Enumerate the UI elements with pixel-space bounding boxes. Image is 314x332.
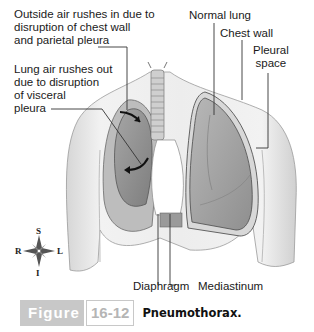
- figure-word: Figure: [20, 300, 84, 326]
- label-lung-air: Lung air rushes out due to disruption of…: [14, 63, 112, 115]
- compass-superior: S: [36, 226, 41, 236]
- compass-rose-icon: [23, 235, 55, 267]
- label-line: disruption of chest wall: [14, 21, 155, 34]
- label-line: pleura: [14, 102, 112, 115]
- compass-inferior: I: [36, 268, 40, 278]
- label-line: Pleural: [253, 44, 289, 57]
- label-line: space: [253, 57, 289, 70]
- trachea: [148, 62, 167, 140]
- label-pleural-space: Pleural space: [253, 44, 289, 70]
- label-line: Outside air rushes in due to: [14, 8, 155, 21]
- label-line: Lung air rushes out: [14, 63, 112, 76]
- compass-left: L: [57, 246, 63, 256]
- label-chest-wall: Chest wall: [220, 27, 273, 40]
- label-line: of visceral: [14, 89, 112, 102]
- label-line: and parietal pleura: [14, 34, 155, 47]
- label-mediastinum: Mediastinum: [198, 280, 263, 293]
- label-outside-air: Outside air rushes in due to disruption …: [14, 8, 155, 47]
- mediastinum-area: [152, 140, 184, 215]
- figure-caption: Figure 16-12 Pneumothorax.: [20, 300, 242, 326]
- figure-title: Pneumothorax.: [142, 306, 241, 320]
- compass-right: R: [15, 246, 22, 256]
- pneumothorax-figure: Outside air rushes in due to disruption …: [0, 0, 314, 332]
- collapsed-lung: [115, 109, 153, 206]
- label-normal-lung: Normal lung: [189, 9, 251, 22]
- label-line: due to disruption: [14, 76, 112, 89]
- figure-number: 16-12: [86, 300, 134, 326]
- label-diaphragm: Diaphragm: [133, 280, 189, 293]
